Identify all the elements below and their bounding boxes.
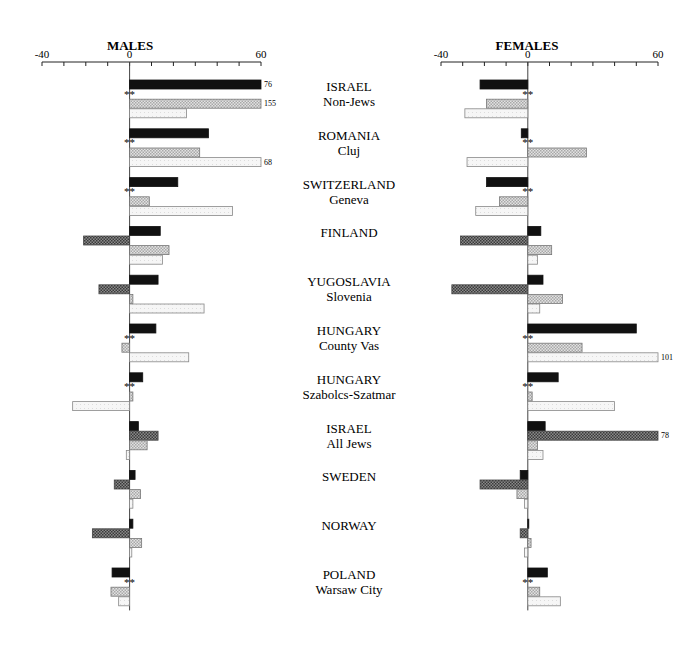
males-bar-s3-group-1: [130, 148, 200, 157]
males-missing-marker: **: [124, 88, 135, 100]
females-bar-s3-group-5: [528, 343, 582, 352]
group-label: HUNGARY: [317, 323, 382, 338]
males-missing-marker: **: [124, 185, 135, 197]
males-bar-s1-group-2: [130, 178, 178, 187]
males-bar-s2-group-7: [130, 431, 158, 440]
group-sublabel: Szabolcs-Szatmar: [302, 387, 396, 402]
females-bar-s3-group-0: [487, 99, 528, 108]
group-sublabel: Geneva: [329, 192, 369, 207]
males-bar-s1-group-4: [130, 275, 158, 284]
males-bar-s3-group-10: [111, 587, 130, 596]
females-value-label: 101: [661, 353, 673, 362]
males-bar-s2-group-8: [114, 480, 129, 489]
males-value-label: 68: [264, 158, 272, 167]
females-missing-marker: **: [522, 185, 533, 197]
males-bar-s1-group-0: [130, 80, 261, 89]
males-bar-s1-group-7: [130, 422, 139, 431]
males-bar-s4-group-7: [126, 450, 129, 459]
females-bar-s4-group-5: [528, 353, 658, 362]
males-bar-s4-group-3: [130, 255, 163, 264]
group-label: FINLAND: [320, 225, 377, 240]
females-bar-s3-group-3: [528, 246, 552, 255]
males-tick-label: 60: [256, 48, 268, 60]
females-bar-s1-group-3: [528, 226, 541, 235]
females-bar-s4-group-4: [528, 304, 540, 313]
females-bar-s1-group-4: [528, 275, 543, 284]
females-bars: ************10178: [452, 80, 673, 606]
males-bar-s4-group-4: [130, 304, 204, 313]
group-sublabel: All Jews: [326, 436, 371, 451]
males-bar-s2-group-4: [99, 285, 130, 294]
males-bar-s3-group-7: [130, 441, 148, 450]
chart: MALES -40060 ************7615568 FEMALES…: [0, 0, 673, 648]
group-sublabel: Slovenia: [326, 289, 372, 304]
group-sublabel: Warsaw City: [315, 582, 383, 597]
males-bar-s4-group-2: [130, 206, 233, 215]
females-missing-marker: **: [522, 136, 533, 148]
males-bar-s4-group-9: [130, 548, 132, 557]
females-bar-s3-group-7: [528, 441, 538, 450]
group-label: HUNGARY: [317, 372, 382, 387]
males-bar-s3-group-4: [130, 294, 133, 303]
group-label: NORWAY: [321, 518, 377, 533]
females-tick-label: -40: [434, 48, 449, 60]
females-bar-s4-group-7: [528, 450, 543, 459]
males-bar-s3-group-2: [130, 197, 150, 206]
males-bar-s3-group-3: [130, 246, 169, 255]
males-bar-s2-group-9: [92, 529, 129, 538]
females-missing-marker: **: [522, 88, 533, 100]
males-bar-s4-group-8: [130, 499, 133, 508]
males-bar-s4-group-10: [119, 597, 130, 606]
females-bar-s4-group-3: [528, 255, 538, 264]
females-bar-s4-group-1: [467, 158, 528, 167]
females-tick-label: 0: [525, 48, 531, 60]
females-bar-s4-group-10: [528, 597, 561, 606]
males-bar-s1-group-9: [130, 519, 133, 528]
females-bar-s1-group-5: [528, 324, 637, 333]
males-bar-s4-group-1: [130, 158, 261, 167]
males-missing-marker: **: [124, 576, 135, 588]
females-bar-s2-group-8: [480, 480, 528, 489]
males-tick-label: -40: [35, 48, 50, 60]
females-bar-s3-group-6: [528, 392, 532, 401]
females-bar-s3-group-4: [528, 294, 563, 303]
males-bar-s3-group-6: [130, 392, 133, 401]
males-bar-s4-group-6: [73, 402, 130, 411]
females-bar-s4-group-0: [465, 109, 528, 118]
females-missing-marker: **: [522, 332, 533, 344]
group-label: ISRAEL: [326, 79, 372, 94]
males-missing-marker: **: [124, 380, 135, 392]
females-missing-marker: **: [522, 380, 533, 392]
males-missing-marker: **: [124, 332, 135, 344]
males-panel: MALES -40060 ************7615568: [35, 38, 276, 610]
females-bar-s2-group-4: [452, 285, 528, 294]
males-bar-s1-group-8: [130, 470, 135, 479]
males-bar-s2-group-3: [84, 236, 130, 245]
females-bar-s2-group-3: [461, 236, 528, 245]
females-bar-s4-group-8: [525, 499, 528, 508]
group-label: YUGOSLAVIA: [307, 274, 391, 289]
females-bar-s1-group-7: [528, 422, 545, 431]
females-missing-marker: **: [522, 576, 533, 588]
females-bar-s4-group-6: [528, 402, 615, 411]
females-bar-s2-group-7: [528, 431, 658, 440]
females-panel: FEMALES -40060 ************10178: [434, 38, 673, 610]
group-sublabel: Non-Jews: [323, 94, 375, 109]
males-bar-s3-group-9: [130, 538, 142, 547]
males-bar-s1-group-3: [130, 226, 161, 235]
group-label: ISRAEL: [326, 421, 372, 436]
males-missing-marker: **: [124, 136, 135, 148]
group-sublabel: Cluj: [338, 143, 360, 158]
males-bar-s4-group-5: [130, 353, 189, 362]
females-bar-s1-group-8: [520, 470, 528, 479]
females-bar-s3-group-2: [500, 197, 528, 206]
group-sublabel: County Vas: [319, 338, 379, 353]
males-bars: ************7615568: [73, 80, 276, 606]
group-labels: ISRAELNon-JewsROMANIAClujSWITZERLANDGene…: [302, 79, 396, 597]
males-bar-s1-group-1: [130, 129, 209, 138]
females-tick-label: 60: [653, 48, 665, 60]
males-bar-s3-group-8: [130, 490, 141, 499]
females-bar-s3-group-8: [517, 490, 528, 499]
group-label: ROMANIA: [318, 128, 381, 143]
group-label: SWITZERLAND: [303, 177, 395, 192]
